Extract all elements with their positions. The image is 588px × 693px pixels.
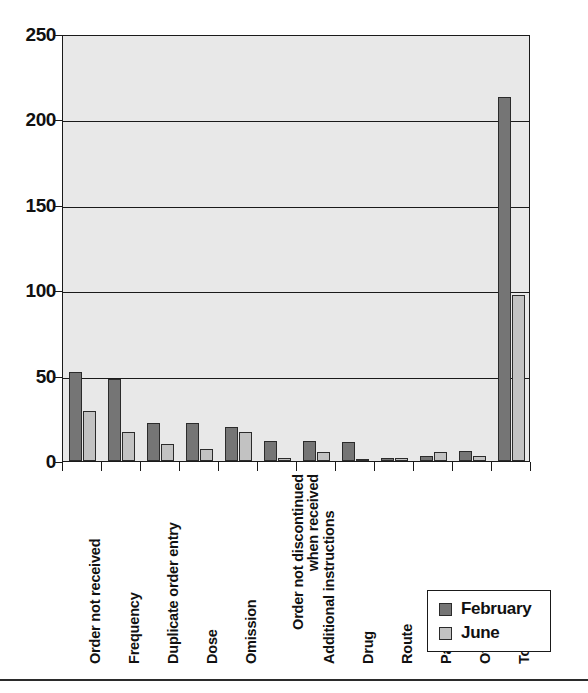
- bar-june: [83, 411, 97, 461]
- bar-chart-figure: 050100150200250 Order not receivedFreque…: [0, 0, 588, 693]
- x-axis-category-label: Omission: [244, 474, 259, 664]
- x-axis-tick: [179, 462, 180, 471]
- x-axis-tick: [140, 462, 141, 471]
- chart-legend: FebruaryJune: [427, 590, 551, 652]
- bar-february: [342, 442, 356, 461]
- bar-february: [108, 379, 122, 461]
- x-axis-category-label: Additional instructions: [322, 474, 337, 664]
- legend-swatch-icon: [439, 627, 452, 640]
- bar-february: [186, 423, 200, 461]
- y-axis-tick-label: 0: [0, 451, 56, 473]
- x-axis-tick: [218, 462, 219, 471]
- x-axis-tick: [374, 462, 375, 471]
- bar-february: [498, 97, 512, 461]
- bar-june: [434, 452, 448, 461]
- y-axis-tick-mark: [54, 120, 62, 121]
- bar-february: [420, 456, 434, 461]
- y-axis-tick-mark: [54, 291, 62, 292]
- y-axis-tick-mark: [54, 35, 62, 36]
- y-axis-tick-mark: [54, 206, 62, 207]
- bar-june: [161, 444, 175, 461]
- x-axis-category-label: Drug: [361, 474, 376, 664]
- bar-june: [473, 456, 487, 461]
- legend-swatch-icon: [439, 603, 452, 616]
- x-axis-tick: [257, 462, 258, 471]
- x-axis-category-label: Order not discontinued when received: [291, 474, 321, 664]
- x-axis-category-label: Order not received: [88, 474, 103, 664]
- legend-label: February: [461, 599, 531, 619]
- plot-area: [62, 35, 530, 462]
- bar-february: [225, 427, 239, 461]
- bar-june: [122, 432, 136, 461]
- bar-june: [395, 458, 409, 461]
- bar-february: [147, 423, 161, 461]
- x-axis-tick: [413, 462, 414, 471]
- bars-layer: [63, 36, 529, 461]
- bar-february: [303, 441, 317, 461]
- bar-june: [239, 432, 253, 461]
- bottom-divider: [0, 679, 588, 681]
- y-axis-tick-mark: [54, 462, 62, 463]
- y-axis-tick-label: 100: [0, 280, 56, 302]
- x-axis-category-label: Duplicate order entry: [166, 474, 181, 664]
- legend-label: June: [461, 623, 499, 643]
- bar-june: [317, 452, 331, 461]
- y-axis-tick-label: 200: [0, 109, 56, 131]
- x-axis-tick: [491, 462, 492, 471]
- bar-february: [381, 458, 395, 461]
- legend-item: February: [439, 597, 550, 621]
- legend-item: June: [439, 621, 550, 645]
- y-axis-tick-label: 250: [0, 24, 56, 46]
- y-axis-tick-mark: [54, 377, 62, 378]
- bar-february: [69, 372, 83, 461]
- bar-february: [459, 451, 473, 461]
- bar-june: [512, 295, 526, 461]
- bar-june: [278, 458, 292, 461]
- x-axis-tick: [101, 462, 102, 471]
- x-axis-category-label: Frequency: [127, 474, 142, 664]
- y-axis-tick-label: 150: [0, 195, 56, 217]
- x-axis-tick: [62, 462, 63, 471]
- x-axis-tick: [452, 462, 453, 471]
- bar-june: [200, 449, 214, 461]
- y-axis-tick-label: 50: [0, 366, 56, 388]
- x-axis-tick: [335, 462, 336, 471]
- x-axis-tick: [530, 462, 531, 471]
- x-axis-category-label: Dose: [205, 474, 220, 664]
- bar-june: [356, 459, 370, 461]
- x-axis-tick: [296, 462, 297, 471]
- x-axis-category-label: Route: [400, 474, 415, 664]
- bar-february: [264, 441, 278, 461]
